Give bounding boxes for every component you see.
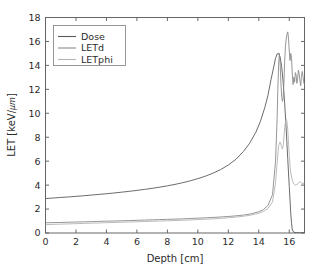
- x-axis-title: Depth [cm]: [147, 253, 204, 264]
- x-tick-label: 8: [164, 236, 170, 247]
- x-tick-label: 12: [222, 236, 234, 247]
- x-tick-label: 2: [73, 236, 79, 247]
- let-depth-line-chart: 0246810121416 024681012141618 Depth [cm]…: [0, 0, 323, 268]
- y-tick-label: 12: [28, 84, 40, 95]
- y-tick-label: 0: [34, 227, 40, 238]
- y-tick-label: 14: [28, 60, 40, 71]
- chart-figure: 0246810121416 024681012141618 Depth [cm]…: [0, 0, 323, 268]
- x-tick-label: 4: [103, 236, 109, 247]
- x-tick-label: 6: [134, 236, 140, 247]
- legend-label-dose: Dose: [81, 31, 105, 42]
- x-tick-label: 16: [283, 236, 295, 247]
- x-tick-label: 10: [192, 236, 204, 247]
- y-axis-title-main: LET [keV/: [6, 109, 17, 157]
- x-tick-label: 14: [253, 236, 265, 247]
- legend-label-letd: LETd: [81, 42, 104, 53]
- y-tick-label: 2: [34, 203, 40, 214]
- y-axis-title: LET [keV/μm]: [6, 93, 17, 157]
- y-axis-unit: μm: [8, 97, 17, 111]
- y-tick-label: 18: [28, 12, 40, 23]
- y-tick-label: 8: [34, 132, 40, 143]
- chart-legend: DoseLETdLETphi: [54, 26, 126, 66]
- y-tick-label: 16: [28, 36, 40, 47]
- legend-label-letphi: LETphi: [81, 54, 113, 65]
- y-axis-title-close: ]: [6, 93, 17, 97]
- y-tick-label: 4: [34, 180, 40, 191]
- y-tick-label: 6: [34, 156, 40, 167]
- x-tick-label: 0: [42, 236, 48, 247]
- y-tick-label: 10: [28, 108, 40, 119]
